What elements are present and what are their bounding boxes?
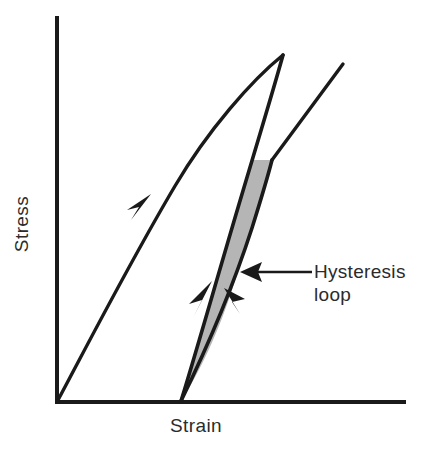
reloading-continuation-line xyxy=(272,64,343,160)
y-axis-label: Stress xyxy=(11,196,32,252)
hysteresis-figure: Strain Stress Hysteresis loop xyxy=(0,0,430,451)
hysteresis-loop-label-line1: Hysteresis xyxy=(314,261,406,282)
stress-strain-diagram: Strain Stress Hysteresis loop xyxy=(0,0,430,451)
hysteresis-loop-shaded-area xyxy=(181,160,272,401)
hysteresis-loop-label-line2: loop xyxy=(314,284,351,305)
x-axis-label: Strain xyxy=(170,415,222,436)
loading-direction-arrow-icon xyxy=(127,194,151,220)
